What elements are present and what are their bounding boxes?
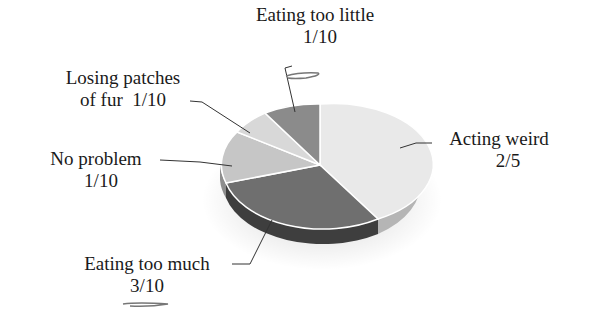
label-losing-fur: Losing patches of fur 1/10 <box>48 67 198 111</box>
leader-eating-too-little <box>285 66 295 112</box>
label-no-problem-name: No problem <box>36 148 156 170</box>
label-eating-too-little: Eating too little 1/10 <box>232 4 398 48</box>
underline-eating-too-much <box>123 303 168 306</box>
label-eating-too-much-name: Eating too much <box>66 253 228 275</box>
label-eating-too-much-value: 3/10 <box>66 275 228 297</box>
label-eating-too-much: Eating too much 3/10 <box>66 253 228 297</box>
label-losing-fur-name: Losing patches <box>48 67 198 89</box>
label-losing-fur-value: of fur 1/10 <box>48 89 198 111</box>
label-no-problem: No problem 1/10 <box>36 148 156 192</box>
label-no-problem-value: 1/10 <box>36 170 156 192</box>
label-acting-weird-value: 2/5 <box>434 150 564 172</box>
label-eating-too-little-value: 1/10 <box>232 26 398 48</box>
label-acting-weird: Acting weird 2/5 <box>434 128 564 172</box>
underline-eating-too-little <box>286 73 319 79</box>
label-acting-weird-name: Acting weird <box>434 128 564 150</box>
label-eating-too-little-name: Eating too little <box>232 4 398 26</box>
